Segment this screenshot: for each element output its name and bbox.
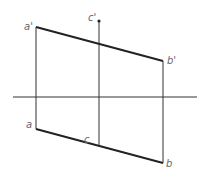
label-a-prime: a' bbox=[24, 21, 33, 32]
label-c: c bbox=[84, 134, 90, 145]
label-a: a bbox=[26, 119, 32, 130]
orthographic-projection-diagram: a' b' c' a b c bbox=[0, 0, 197, 182]
label-b-prime: b' bbox=[167, 55, 176, 66]
label-c-prime: c' bbox=[88, 12, 96, 23]
point-c-prime bbox=[97, 19, 100, 22]
label-b: b bbox=[166, 158, 172, 169]
